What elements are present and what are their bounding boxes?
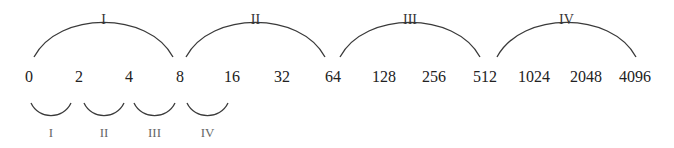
bottom-arc bbox=[187, 103, 228, 116]
bottom-arc bbox=[84, 103, 124, 116]
number-label: 32 bbox=[274, 68, 290, 85]
diagram-canvas: IIIIIIIV 0248163264128256512102420484096… bbox=[0, 0, 674, 148]
number-label: 64 bbox=[325, 68, 341, 85]
top-arc bbox=[497, 22, 636, 57]
number-label: 2048 bbox=[570, 68, 602, 85]
bottom-arc-label: IV bbox=[201, 125, 215, 140]
number-label: 4096 bbox=[619, 68, 651, 85]
bottom-arc-label: I bbox=[49, 125, 53, 140]
number-label: 8 bbox=[176, 68, 184, 85]
top-arc-label: I bbox=[101, 12, 106, 27]
number-label: 128 bbox=[372, 68, 396, 85]
number-line-diagram: IIIIIIIV 0248163264128256512102420484096… bbox=[0, 0, 674, 148]
number-label: 16 bbox=[224, 68, 240, 85]
number-label: 4 bbox=[125, 68, 133, 85]
number-label: 2 bbox=[75, 68, 83, 85]
bottom-arc-group: IIIIIIIV bbox=[31, 103, 228, 140]
top-arc bbox=[186, 22, 325, 57]
number-label: 1024 bbox=[518, 68, 550, 85]
bottom-arc bbox=[31, 103, 71, 116]
top-arc-label: IV bbox=[559, 12, 574, 27]
number-label: 256 bbox=[422, 68, 446, 85]
bottom-arc bbox=[134, 103, 175, 116]
top-arc bbox=[34, 22, 173, 57]
number-sequence: 0248163264128256512102420484096 bbox=[25, 68, 651, 85]
top-arc-group: IIIIIIIV bbox=[34, 12, 636, 57]
bottom-arc-label: II bbox=[100, 125, 109, 140]
top-arc-label: III bbox=[403, 12, 417, 27]
top-arc-label: II bbox=[251, 12, 261, 27]
number-label: 0 bbox=[25, 68, 33, 85]
top-arc bbox=[340, 22, 480, 57]
bottom-arc-label: III bbox=[148, 125, 161, 140]
number-label: 512 bbox=[473, 68, 497, 85]
